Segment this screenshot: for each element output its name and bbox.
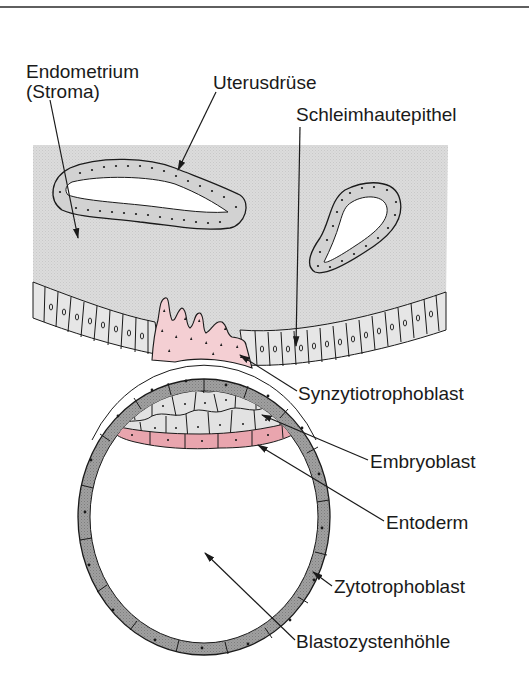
- label-blastocyst-cavity: Blastozystenhöhle: [296, 631, 450, 652]
- label-stroma: (Stroma): [26, 81, 100, 102]
- implantation-diagram: Endometrium (Stroma) Uterusdrüse Schleim…: [0, 0, 529, 689]
- label-endometrium: Endometrium: [26, 61, 139, 82]
- label-entoderm: Entoderm: [386, 512, 468, 533]
- label-uterine-gland: Uterusdrüse: [213, 72, 317, 93]
- label-embryoblast: Embryoblast: [370, 451, 476, 472]
- label-mucosal-epithelium: Schleimhautepithel: [296, 104, 457, 125]
- label-cytotrophoblast: Zytotrophoblast: [334, 576, 466, 597]
- label-syncytiotrophoblast: Synzytiotrophoblast: [298, 383, 465, 404]
- blastocyst: [78, 365, 330, 655]
